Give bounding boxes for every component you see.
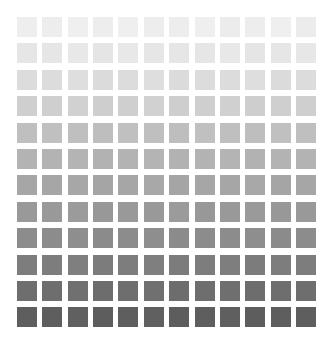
grid-cell xyxy=(118,175,138,195)
grid-cell xyxy=(195,123,215,143)
grid-cell xyxy=(195,202,215,222)
grid-cell xyxy=(245,43,265,63)
grid-cell xyxy=(245,281,265,301)
grid-cell xyxy=(68,17,88,37)
grid-cell xyxy=(296,17,316,37)
grid-cell xyxy=(296,307,316,327)
grid-cell xyxy=(42,96,62,116)
grid-cell xyxy=(17,43,37,63)
grid-cell xyxy=(68,175,88,195)
grid-cell xyxy=(68,149,88,169)
grid-cell xyxy=(169,307,189,327)
grid-cell xyxy=(93,96,113,116)
grid-cell xyxy=(118,281,138,301)
grid-cell xyxy=(296,123,316,143)
grid-cell xyxy=(68,96,88,116)
grid-cell xyxy=(68,43,88,63)
grid-cell xyxy=(271,307,291,327)
grid-cell xyxy=(42,202,62,222)
grid-row xyxy=(17,17,316,43)
grid-row xyxy=(17,175,316,201)
grid-row xyxy=(17,255,316,281)
grid-cell xyxy=(245,123,265,143)
grid-cell xyxy=(118,202,138,222)
grid-cell xyxy=(118,307,138,327)
grid-cell xyxy=(17,202,37,222)
grid-cell xyxy=(169,281,189,301)
grid-cell xyxy=(195,70,215,90)
grid-cell xyxy=(271,202,291,222)
square-grid xyxy=(17,17,316,334)
grid-row xyxy=(17,281,316,307)
grid-cell xyxy=(68,307,88,327)
grid-cell xyxy=(42,123,62,143)
grid-cell xyxy=(195,281,215,301)
grid-cell xyxy=(17,96,37,116)
grid-cell xyxy=(93,202,113,222)
grid-cell xyxy=(245,255,265,275)
grid-cell xyxy=(220,202,240,222)
grid-cell xyxy=(271,96,291,116)
grid-cell xyxy=(245,96,265,116)
grid-cell xyxy=(271,281,291,301)
grid-cell xyxy=(169,202,189,222)
grid-cell xyxy=(220,228,240,248)
grid-cell xyxy=(169,228,189,248)
grid-cell xyxy=(17,123,37,143)
grid-cell xyxy=(42,70,62,90)
grid-cell xyxy=(245,70,265,90)
grid-cell xyxy=(144,175,164,195)
grid-cell xyxy=(93,281,113,301)
grid-cell xyxy=(118,70,138,90)
grid-cell xyxy=(144,123,164,143)
grid-cell xyxy=(17,70,37,90)
grid-cell xyxy=(42,43,62,63)
grid-cell xyxy=(220,96,240,116)
grid-row xyxy=(17,70,316,96)
grid-cell xyxy=(296,255,316,275)
grid-cell xyxy=(271,70,291,90)
grid-cell xyxy=(68,255,88,275)
grid-cell xyxy=(195,43,215,63)
grid-cell xyxy=(68,228,88,248)
grid-cell xyxy=(169,123,189,143)
grid-cell xyxy=(220,281,240,301)
grid-cell xyxy=(220,70,240,90)
grid-row xyxy=(17,43,316,69)
grid-cell xyxy=(68,123,88,143)
grid-cell xyxy=(271,175,291,195)
grid-cell xyxy=(296,43,316,63)
grid-cell xyxy=(195,17,215,37)
grid-cell xyxy=(17,281,37,301)
grid-cell xyxy=(245,228,265,248)
grid-cell xyxy=(245,307,265,327)
grid-cell xyxy=(144,255,164,275)
grid-cell xyxy=(144,307,164,327)
grid-cell xyxy=(296,228,316,248)
grid-cell xyxy=(17,255,37,275)
grid-cell xyxy=(118,228,138,248)
grid-cell xyxy=(144,281,164,301)
grid-cell xyxy=(220,123,240,143)
grid-cell xyxy=(42,281,62,301)
grid-cell xyxy=(271,149,291,169)
grid-cell xyxy=(169,17,189,37)
grid-cell xyxy=(144,17,164,37)
grid-cell xyxy=(42,175,62,195)
grid-cell xyxy=(42,228,62,248)
grid-cell xyxy=(169,255,189,275)
grid-cell xyxy=(118,149,138,169)
grid-cell xyxy=(195,149,215,169)
grid-cell xyxy=(195,96,215,116)
grid-cell xyxy=(17,149,37,169)
grid-cell xyxy=(169,96,189,116)
grid-cell xyxy=(68,202,88,222)
grid-cell xyxy=(93,17,113,37)
grid-cell xyxy=(144,96,164,116)
grid-cell xyxy=(296,96,316,116)
gradient-grid-canvas xyxy=(0,0,333,355)
grid-cell xyxy=(144,228,164,248)
grid-cell xyxy=(118,43,138,63)
grid-cell xyxy=(93,70,113,90)
grid-cell xyxy=(42,149,62,169)
